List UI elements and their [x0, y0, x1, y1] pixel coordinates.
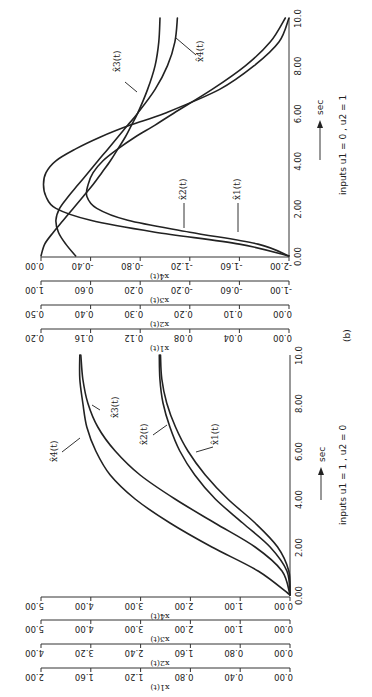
value-tick-label: 0.80 [174, 672, 193, 682]
value-tick: 4.00 [25, 648, 44, 658]
label-a-x1: x̂1(t) [210, 424, 220, 445]
value-tick-label: 0.40 [75, 309, 94, 319]
value-tick: 0.40 [75, 309, 94, 319]
time-tick-label: 4.00 [293, 152, 303, 171]
value-tick-label: -1.60 [220, 261, 242, 271]
value-tick: -0.20 [171, 285, 193, 295]
panel-a-xlabel: sec inputs u1 = 1 , u2 = 0 [317, 425, 348, 525]
time-tick: 6.00 [293, 104, 303, 123]
value-tick-label: 0.80 [224, 648, 243, 658]
value-tick: 2.00 [174, 601, 193, 611]
value-tick: 0.20 [25, 333, 44, 343]
arrow-a-x4 [62, 438, 80, 452]
value-tick: 0.00 [273, 309, 292, 319]
value-tick: 0.80 [174, 672, 193, 682]
label-a-x4: x̂4(t) [49, 441, 59, 462]
arrow-head-icon [317, 120, 323, 128]
value-tick-label: 0.12 [124, 333, 143, 343]
value-tick: 0.00 [273, 333, 292, 343]
panel-b-curves [41, 18, 289, 256]
panel-a-time-ticks: 0.002.004.006.008.0010.0 [294, 346, 304, 605]
value-tick: 0.30 [124, 309, 143, 319]
curve-x3t [81, 355, 290, 595]
value-tick: 2.00 [174, 624, 193, 634]
panel-b-curve-labels: x̂3(t) x̂4(t) x̂2(t) x̂1(t) [112, 38, 242, 232]
figure: 0.002.004.006.008.0010.0 -2.00-1.60-1.20… [0, 0, 372, 697]
value-tick-label: 0.10 [223, 309, 242, 319]
value-tick-label: 0.20 [174, 309, 193, 319]
value-tick-label: 0.00 [273, 309, 292, 319]
value-tick: -1.00 [270, 285, 292, 295]
time-tick: 2.00 [294, 538, 304, 557]
value-tick-label: 0.00 [274, 601, 293, 611]
value-tick: 5.00 [25, 624, 44, 634]
time-tick-label: 8.00 [294, 394, 304, 413]
value-tick-label: 4.00 [75, 624, 94, 634]
value-tick: 0.00 [274, 672, 293, 682]
label-a-x3: x̂3(t) [110, 397, 120, 418]
value-tick: -0.40 [72, 261, 94, 271]
panel-b-chart: 0.002.004.006.008.0010.0 -2.00-1.60-1.20… [25, 9, 352, 353]
time-tick: 10.0 [293, 9, 303, 28]
value-tick-label: 4.00 [25, 648, 44, 658]
value-tick-label: -2.00 [270, 261, 292, 271]
value-axis-title: x4(t) [150, 272, 169, 281]
value-tick: -1.60 [220, 261, 242, 271]
value-axis-title: x2(t) [150, 320, 169, 329]
value-tick: 1.00 [25, 285, 44, 295]
value-tick-label: 0.20 [124, 285, 143, 295]
value-tick: 0.00 [274, 624, 293, 634]
value-tick: 0.04 [223, 333, 242, 343]
value-tick: -2.00 [270, 261, 292, 271]
value-tick: 0.12 [124, 333, 143, 343]
time-tick: 6.00 [294, 442, 304, 461]
label-b-x4: x̂4(t) [195, 41, 205, 62]
value-tick: 1.20 [125, 672, 144, 682]
value-tick: 3.20 [75, 648, 94, 658]
value-tick: 0.10 [223, 309, 242, 319]
time-tick-label: 2.00 [293, 199, 303, 218]
value-tick-label: 0.60 [75, 285, 94, 295]
value-tick-label: 5.00 [25, 601, 44, 611]
value-tick-label: 2.00 [25, 672, 44, 682]
value-tick: 1.60 [174, 648, 193, 658]
time-tick-label: 10.0 [293, 9, 303, 28]
time-tick-label: 6.00 [294, 442, 304, 461]
value-tick-label: 0.00 [25, 261, 44, 271]
value-tick-label: 3.20 [75, 648, 94, 658]
time-tick: 0.00 [293, 247, 303, 266]
value-tick-label: 1.00 [224, 624, 243, 634]
panel-a-curve-labels: x̂4(t) x̂3(t) x̂2(t) x̂1(t) [49, 397, 220, 462]
panel-a-chart: 0.002.004.006.008.0010.0 0.001.002.003.0… [25, 346, 348, 692]
time-tick-label: 8.00 [293, 57, 303, 76]
time-tick: 0.00 [294, 586, 304, 605]
value-tick-label: 0.08 [174, 333, 193, 343]
arrow-b-x4 [176, 38, 196, 55]
value-tick: 3.00 [125, 601, 144, 611]
value-tick-label: 4.00 [75, 601, 94, 611]
value-tick: 0.40 [224, 672, 243, 682]
value-tick: 0.20 [124, 285, 143, 295]
value-tick: 1.60 [75, 672, 94, 682]
inputs-label-b: inputs u1 = 0 , u2 = 1 [338, 95, 348, 195]
value-tick-label: -0.80 [121, 261, 143, 271]
value-tick-label: 0.00 [274, 624, 293, 634]
arrow-a-x2 [153, 425, 167, 435]
time-tick-label: 4.00 [294, 490, 304, 509]
value-tick-label: 0.50 [25, 309, 44, 319]
panel-b-time-ticks: 0.002.004.006.008.0010.0 [293, 9, 303, 266]
label-b-x1: x̂1(t) [232, 179, 242, 200]
value-tick-label: -1.00 [270, 285, 292, 295]
time-tick: 8.00 [294, 394, 304, 413]
label-b-x3: x̂3(t) [112, 51, 122, 72]
time-tick: 4.00 [293, 152, 303, 171]
value-axis-title: x3(t) [150, 296, 169, 305]
time-tick-label: 2.00 [294, 538, 304, 557]
time-tick-label: 6.00 [293, 104, 303, 123]
value-tick-label: 0.30 [124, 309, 143, 319]
value-tick-label: 1.60 [75, 672, 94, 682]
value-tick-label: 0.00 [274, 672, 293, 682]
arrow-b-x3 [125, 82, 137, 92]
value-tick: 3.00 [125, 624, 144, 634]
value-tick: 0.16 [75, 333, 94, 343]
